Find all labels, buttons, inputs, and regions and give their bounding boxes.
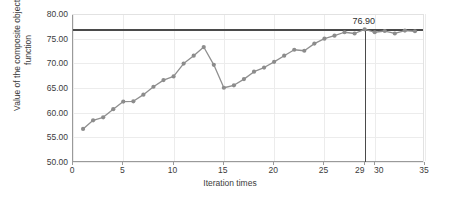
x-tick-label: 10 [168, 165, 177, 175]
data-point-marker [91, 118, 95, 122]
data-point-marker [322, 37, 326, 41]
data-point-marker [383, 29, 387, 33]
gridline-y [73, 162, 424, 163]
y-tick-label: 60.00 [6, 108, 68, 118]
data-point-marker [222, 86, 226, 90]
y-tick-label: 65.00 [6, 83, 68, 93]
data-point-marker [413, 29, 417, 33]
x-tick-mark [364, 162, 365, 165]
value-annotation: 76.90 [352, 16, 375, 26]
x-tick-label: 0 [70, 165, 75, 175]
data-point-marker [111, 107, 115, 111]
plot-top-border [72, 14, 424, 15]
data-point-marker [192, 54, 196, 58]
x-tick-mark [424, 162, 425, 165]
data-series-line [73, 14, 425, 162]
data-point-marker [151, 85, 155, 89]
x-tick-mark [374, 162, 375, 165]
y-tick-label: 70.00 [6, 58, 68, 68]
x-tick-mark [72, 162, 73, 165]
data-point-marker [262, 65, 266, 69]
x-tick-label: 29 [355, 165, 364, 175]
y-tick-label: 75.00 [6, 34, 68, 44]
data-point-marker [232, 83, 236, 87]
x-tick-mark [323, 162, 324, 165]
x-tick-label: 20 [268, 165, 277, 175]
data-point-marker [121, 99, 125, 103]
data-point-marker [302, 49, 306, 53]
x-tick-label: 30 [374, 165, 383, 175]
series-polyline [83, 29, 415, 129]
data-point-marker [282, 54, 286, 58]
gridline-x [425, 14, 426, 161]
x-tick-mark [122, 162, 123, 165]
y-tick-label: 55.00 [6, 132, 68, 142]
data-point-marker [272, 60, 276, 64]
x-tick-mark [273, 162, 274, 165]
data-point-marker [403, 28, 407, 32]
data-point-marker [393, 31, 397, 35]
data-point-marker [242, 77, 246, 81]
x-tick-label: 25 [319, 165, 328, 175]
data-point-marker [131, 99, 135, 103]
x-tick-mark [173, 162, 174, 165]
data-point-marker [332, 34, 336, 38]
x-tick-label: 15 [218, 165, 227, 175]
x-axis-label: Iteration times [0, 178, 460, 188]
data-point-marker [342, 30, 346, 34]
data-point-marker [141, 93, 145, 97]
x-tick-label: 5 [120, 165, 125, 175]
data-point-marker [312, 42, 316, 46]
data-point-marker [81, 127, 85, 131]
data-point-marker [101, 115, 105, 119]
data-point-marker [182, 61, 186, 65]
data-point-marker [363, 27, 367, 31]
y-tick-label: 50.00 [6, 157, 68, 167]
data-point-marker [212, 63, 216, 67]
x-tick-mark [223, 162, 224, 165]
data-point-marker [171, 74, 175, 78]
data-point-marker [353, 31, 357, 35]
data-point-marker [292, 48, 296, 52]
plot-right-border [423, 14, 424, 162]
plot-area [72, 14, 424, 162]
data-point-marker [161, 78, 165, 82]
data-point-marker [252, 70, 256, 74]
data-point-marker [202, 45, 206, 49]
y-tick-label: 80.00 [6, 9, 68, 19]
chart-container: Value of the composite objective functio… [0, 0, 460, 197]
x-tick-label: 35 [419, 165, 428, 175]
data-point-marker [373, 30, 377, 34]
